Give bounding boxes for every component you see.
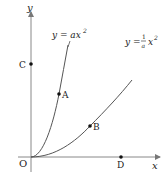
steep-label-leader: [68, 41, 70, 47]
curve-steep: [31, 45, 68, 157]
svg-text:y =: y =: [124, 37, 141, 47]
svg-text:D: D: [117, 160, 124, 170]
svg-text:y = ax: y = ax: [51, 30, 81, 40]
svg-text:A: A: [61, 90, 69, 100]
svg-text:2: 2: [153, 34, 158, 41]
curve-shallow: [31, 80, 132, 157]
origin-label: O: [19, 158, 27, 169]
curve-steep-label: y = ax 2: [51, 27, 87, 40]
svg-text:B: B: [93, 122, 100, 132]
svg-text:2: 2: [82, 27, 87, 34]
point-b: B: [88, 122, 100, 132]
svg-text:x: x: [148, 37, 153, 47]
curve-shallow-label: y = 1 a x 2: [124, 33, 158, 49]
svg-text:C: C: [19, 60, 26, 70]
svg-text:1: 1: [142, 33, 146, 40]
parabola-diagram: y x O y = ax 2 y = 1 a x 2 A B: [0, 0, 168, 186]
x-axis-label: x: [152, 160, 158, 171]
y-axis-label: y: [26, 2, 33, 13]
svg-text:a: a: [142, 42, 146, 49]
